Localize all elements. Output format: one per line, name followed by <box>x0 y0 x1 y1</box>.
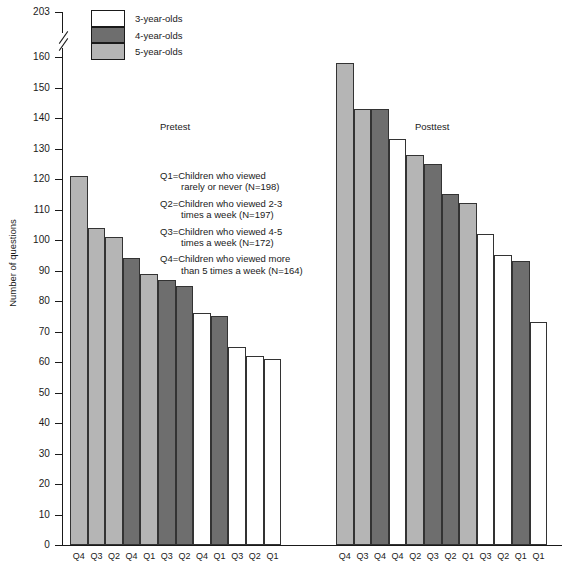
legend-label-4-year-olds: 4-year-olds <box>135 30 183 41</box>
x-axis-tick-label: Q1 <box>211 551 229 561</box>
y-axis-tick-label: 30 <box>18 449 50 459</box>
bar <box>176 286 194 545</box>
definition-line-1: Q1=Children who viewed <box>160 170 266 181</box>
legend-item-5-year-olds: 5-year-olds <box>91 43 241 60</box>
x-axis-tick-label: Q3 <box>477 551 495 561</box>
category-definition-q3: Q3=Children who viewed 4-5times a week (… <box>160 226 360 249</box>
x-axis-tick-label: Q2 <box>406 551 424 561</box>
definition-line-2: times a week (N=197) <box>160 209 360 220</box>
y-axis-tick-label: 20 <box>18 479 50 489</box>
y-axis-tick-label: 110 <box>18 205 50 215</box>
bar <box>424 164 442 545</box>
y-axis-tick-value: 50 <box>18 388 50 398</box>
x-axis-tick-label: Q2 <box>246 551 264 561</box>
y-axis-title: Number of questions <box>8 193 18 333</box>
x-axis-tick-label: Q2 <box>176 551 194 561</box>
bar <box>530 322 548 545</box>
bar <box>336 63 354 545</box>
y-axis-tick-value: 130 <box>18 144 50 154</box>
y-axis-tick-value: 203 <box>18 7 50 17</box>
bar <box>158 280 176 545</box>
y-axis-tick <box>55 240 63 241</box>
y-axis-tick-label: 80 <box>18 296 50 306</box>
definition-line-2: rarely or never (N=198) <box>160 181 360 192</box>
bar <box>193 313 211 545</box>
axis-break-icon <box>55 30 71 52</box>
y-axis-tick-label: 140 <box>18 113 50 123</box>
x-axis-tick-label: Q3 <box>228 551 246 561</box>
legend-label-5-year-olds: 5-year-olds <box>135 46 183 57</box>
y-axis-tick-label: 90 <box>18 266 50 276</box>
bar <box>88 228 106 545</box>
y-axis-tick-label: 10 <box>18 510 50 520</box>
definition-line-1: Q3=Children who viewed 4-5 <box>160 226 282 237</box>
y-axis-tick-label: 70 <box>18 327 50 337</box>
bar <box>105 237 123 545</box>
bar <box>389 139 407 545</box>
posttest-group-title: Posttest <box>415 121 449 132</box>
legend: 3-year-olds 4-year-olds 5-year-olds <box>91 10 241 60</box>
y-axis-tick-value: 120 <box>18 174 50 184</box>
bar <box>477 234 495 545</box>
y-axis-tick-value: 60 <box>18 357 50 367</box>
y-axis-tick-value: 40 <box>18 418 50 428</box>
y-axis-tick-label: 160 <box>18 52 50 62</box>
y-axis-tick <box>55 545 63 546</box>
bar <box>228 347 246 545</box>
y-axis-tick <box>55 301 63 302</box>
bar <box>140 274 158 545</box>
x-axis-tick-label: Q4 <box>193 551 211 561</box>
y-axis-tick <box>55 88 63 89</box>
x-axis-tick-label: Q4 <box>70 551 88 561</box>
y-axis-tick-value: 0 <box>18 540 50 550</box>
x-axis-tick-label: Q3 <box>354 551 372 561</box>
legend-swatch-5-year-olds <box>91 43 125 60</box>
y-axis-tick-value: 10 <box>18 510 50 520</box>
y-axis-tick-label: 40 <box>18 418 50 428</box>
y-axis-tick <box>55 423 63 424</box>
x-axis-tick-label: Q2 <box>442 551 460 561</box>
legend-label-3-year-olds: 3-year-olds <box>135 13 183 24</box>
x-axis-tick-label: Q2 <box>494 551 512 561</box>
y-axis-tick <box>55 515 63 516</box>
bar <box>211 316 229 545</box>
y-axis-tick-label: 100 <box>18 235 50 245</box>
y-axis-tick <box>55 57 63 58</box>
bar <box>459 203 477 545</box>
y-axis-tick-value: 150 <box>18 83 50 93</box>
x-axis-tick-label: Q4 <box>123 551 141 561</box>
bar <box>512 261 530 545</box>
x-axis-tick-label: Q4 <box>371 551 389 561</box>
y-axis-tick-label: 60 <box>18 357 50 367</box>
definition-line-2: than 5 times a week (N=164) <box>160 265 360 276</box>
y-axis-tick <box>55 271 63 272</box>
y-axis-tick-value: 110 <box>18 205 50 215</box>
y-axis-tick-value: 90 <box>18 266 50 276</box>
y-axis-tick-value: 20 <box>18 479 50 489</box>
y-axis-tick-value: 30 <box>18 449 50 459</box>
category-definition-q1: Q1=Children who viewedrarely or never (N… <box>160 170 360 193</box>
category-definition-q4: Q4=Children who viewed morethan 5 times … <box>160 253 360 276</box>
y-axis-line <box>62 12 63 546</box>
y-axis-tick <box>55 149 63 150</box>
bar <box>264 359 282 545</box>
category-definition-q2: Q2=Children who viewed 2-3times a week (… <box>160 198 360 221</box>
y-axis-tick-value: 70 <box>18 327 50 337</box>
legend-swatch-4-year-olds <box>91 27 125 44</box>
category-definitions: Q1=Children who viewedrarely or never (N… <box>160 170 360 281</box>
bar <box>442 194 460 545</box>
x-axis-tick-label: Q4 <box>336 551 354 561</box>
y-axis-tick-label: 150 <box>18 83 50 93</box>
x-axis-tick-label: Q1 <box>140 551 158 561</box>
y-axis-tick <box>55 118 63 119</box>
y-axis-tick <box>55 332 63 333</box>
x-axis-tick-label: Q3 <box>424 551 442 561</box>
x-axis-tick-label: Q1 <box>512 551 530 561</box>
y-axis-tick <box>55 362 63 363</box>
definition-line-1: Q2=Children who viewed 2-3 <box>160 198 282 209</box>
y-axis-tick <box>55 484 63 485</box>
bar <box>123 258 141 545</box>
y-axis-tick-label: 0 <box>18 540 50 550</box>
x-axis-tick-label: Q1 <box>459 551 477 561</box>
legend-swatch-3-year-olds <box>91 10 125 27</box>
